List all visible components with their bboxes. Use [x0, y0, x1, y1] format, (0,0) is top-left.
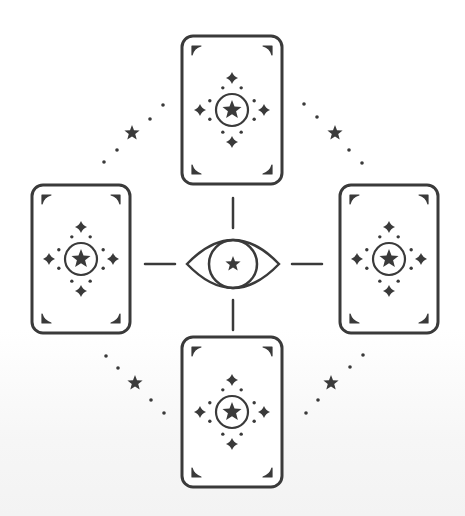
dot-icon — [221, 388, 224, 391]
star-icon — [124, 125, 139, 139]
star-icon — [327, 125, 342, 139]
dot-icon — [347, 148, 351, 152]
dotted-path-bottom-left — [104, 354, 166, 415]
dot-icon — [101, 266, 104, 269]
dot-icon — [316, 398, 320, 402]
dot-icon — [104, 354, 108, 358]
dot-icon — [315, 115, 319, 119]
dot-icon — [116, 366, 120, 370]
dotted-path-top-left — [102, 103, 165, 164]
dot-icon — [252, 401, 255, 404]
dot-icon — [88, 279, 91, 282]
dot-icon — [101, 248, 104, 251]
dot-icon — [221, 86, 224, 89]
dot-icon — [378, 235, 381, 238]
eye-icon — [187, 240, 279, 288]
card-top — [182, 36, 282, 184]
dot-icon — [57, 266, 60, 269]
dot-icon — [239, 86, 242, 89]
dot-icon — [239, 130, 242, 133]
tarot-illustration — [0, 0, 465, 516]
dot-icon — [409, 248, 412, 251]
dot-icon — [378, 279, 381, 282]
dot-icon — [221, 432, 224, 435]
dot-icon — [221, 130, 224, 133]
dot-icon — [88, 235, 91, 238]
dot-icon — [348, 365, 352, 369]
star-icon — [127, 375, 142, 389]
dot-icon — [409, 266, 412, 269]
dot-icon — [365, 248, 368, 251]
dotted-path-top-right — [302, 102, 364, 165]
dot-icon — [304, 411, 308, 415]
dot-icon — [208, 419, 211, 422]
dotted-path-bottom-right — [304, 353, 365, 415]
dot-icon — [162, 411, 166, 415]
dot-icon — [208, 99, 211, 102]
dot-icon — [396, 235, 399, 238]
card-left — [32, 185, 130, 333]
dot-icon — [70, 235, 73, 238]
dot-icon — [252, 99, 255, 102]
dot-icon — [148, 117, 152, 121]
dot-icon — [239, 432, 242, 435]
dot-icon — [149, 398, 153, 402]
dot-icon — [239, 388, 242, 391]
dot-icon — [208, 401, 211, 404]
dot-icon — [115, 148, 119, 152]
dot-icon — [102, 160, 106, 164]
dot-icon — [208, 117, 211, 120]
dot-icon — [361, 353, 365, 357]
dot-icon — [365, 266, 368, 269]
star-icon — [323, 375, 338, 389]
dot-icon — [252, 419, 255, 422]
dot-icon — [70, 279, 73, 282]
dot-icon — [161, 103, 165, 107]
dot-icon — [396, 279, 399, 282]
dot-icon — [57, 248, 60, 251]
dot-icon — [302, 102, 306, 106]
card-right — [340, 185, 438, 333]
dot-icon — [360, 161, 364, 165]
card-bottom — [182, 337, 282, 487]
dot-icon — [252, 117, 255, 120]
